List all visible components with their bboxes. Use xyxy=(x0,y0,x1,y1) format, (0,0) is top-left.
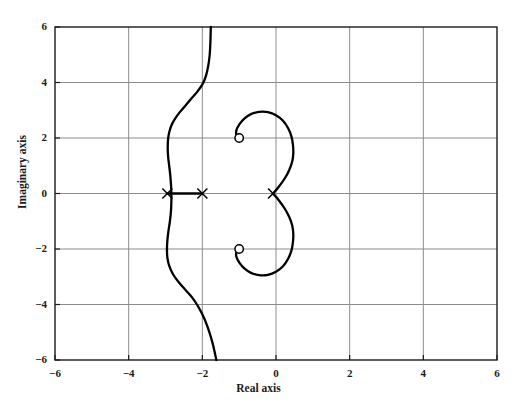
x-tick-label: −6 xyxy=(35,367,75,379)
y-axis-label: Imaginary axis xyxy=(16,122,28,222)
x-tick-label: −2 xyxy=(182,367,222,379)
x-tick-label: 2 xyxy=(330,367,370,379)
zero-marker xyxy=(235,245,243,253)
zero-marker xyxy=(235,134,243,142)
root-locus-plot: −6−4−20246−6−4−20246 Real axis Imaginary… xyxy=(0,0,517,409)
x-tick-label: 6 xyxy=(477,367,517,379)
x-tick-label: 4 xyxy=(403,367,443,379)
plot-background xyxy=(0,0,517,409)
x-axis-label: Real axis xyxy=(0,382,517,394)
y-axis-label-wrap: Imaginary axis xyxy=(6,0,26,409)
x-tick-label: −4 xyxy=(109,367,149,379)
plot-canvas xyxy=(0,0,517,409)
x-tick-label: 0 xyxy=(256,367,296,379)
